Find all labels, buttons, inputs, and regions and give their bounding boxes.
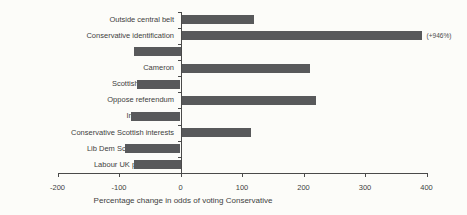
category-tick [178,141,181,142]
bar [137,80,180,89]
x-axis-tick-label: 0 [178,183,182,192]
x-axis-title: Percentage change in odds of voting Cons… [94,196,273,206]
category-tick [178,28,181,29]
x-axis-tick [181,173,182,177]
x-axis-tick-label: 200 [297,183,310,192]
category-label: Conservative Scottish interests [71,128,174,138]
x-axis-tick-label: 300 [359,183,372,192]
x-axis-tick-label: -100 [111,183,126,192]
category-tick [178,60,181,61]
x-axis-tick [304,173,305,177]
bar [181,96,316,105]
category-label: Oppose referendum [107,95,174,105]
bar [134,160,180,169]
category-label: Conservative identification [86,31,174,41]
bar [181,128,252,137]
x-axis-tick-label: 400 [420,183,433,192]
clipped-bar-annotation: (+946%) [427,32,452,40]
x-axis-tick [242,173,243,177]
category-tick [178,92,181,93]
bar [134,47,180,56]
y-axis-line [181,12,182,174]
category-tick [178,108,181,109]
category-tick [178,125,181,126]
category-tick [178,44,181,45]
bar [181,15,255,24]
category-tick [178,157,181,158]
category-tick [178,12,181,13]
x-axis-tick-label: 100 [236,183,249,192]
bar [181,31,422,40]
bar-chart: Outside central beltConservative identif… [0,0,467,215]
bar [181,64,310,73]
x-axis-tick [365,173,366,177]
x-axis-tick [427,173,428,177]
x-axis-tick-label: -200 [50,183,65,192]
category-tick [178,76,181,77]
bar [125,144,180,153]
scanned-bar-chart-page: Outside central beltConservative identif… [0,0,467,215]
x-axis-tick [119,173,120,177]
category-label: Cameron [143,63,174,73]
category-label: Outside central belt [109,15,174,25]
bar [131,112,180,121]
x-axis-tick [58,173,59,177]
